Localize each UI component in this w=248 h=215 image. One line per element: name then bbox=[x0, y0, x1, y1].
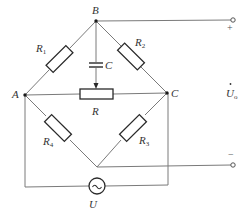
node-a-dot bbox=[23, 93, 26, 96]
node-label-c: C bbox=[171, 87, 179, 99]
resistor-r-potentiometer bbox=[25, 89, 167, 99]
node-b-dot bbox=[94, 19, 97, 22]
svg-text:o: o bbox=[234, 93, 238, 101]
label-r4: R4 bbox=[42, 135, 54, 149]
wire-b-to-plus bbox=[96, 20, 231, 21]
node-label-b: B bbox=[92, 4, 99, 16]
resistor-r1 bbox=[25, 21, 96, 95]
node-c-dot bbox=[165, 91, 168, 94]
ac-source bbox=[89, 178, 105, 194]
label-source-u: U bbox=[89, 198, 98, 210]
label-r1: R1 bbox=[35, 42, 47, 56]
svg-text:−: − bbox=[228, 149, 234, 160]
bridge-circuit-diagram: B A C R1 R2 R3 R4 R C U + − U o bbox=[0, 0, 248, 215]
label-r: R bbox=[91, 105, 99, 117]
label-r2: R2 bbox=[134, 36, 146, 50]
label-r3: R3 bbox=[138, 134, 150, 148]
resistor-r4 bbox=[25, 95, 97, 167]
wiper-arrow-icon bbox=[94, 83, 99, 89]
resistor-r3 bbox=[97, 93, 167, 167]
capacitor-c bbox=[89, 21, 103, 89]
resistor-r2 bbox=[96, 21, 167, 93]
output-voltage-label: + − U o bbox=[226, 22, 238, 160]
label-c: C bbox=[105, 59, 113, 71]
svg-text:+: + bbox=[227, 22, 233, 33]
output-terminal-minus bbox=[231, 163, 235, 167]
node-label-a: A bbox=[11, 88, 19, 100]
wire-d-to-minus bbox=[97, 165, 231, 167]
